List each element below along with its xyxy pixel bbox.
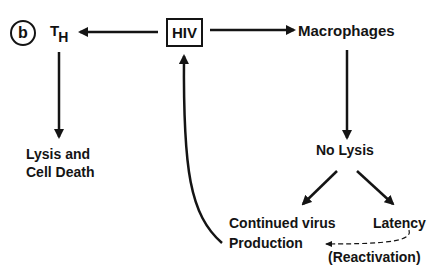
node-latency: Latency xyxy=(373,215,426,232)
panel-label-badge: b xyxy=(10,20,36,46)
arrow-no-lysis-to-latency xyxy=(357,171,393,204)
arrow-reactivation-dashed xyxy=(326,230,409,244)
node-lysis-line2: Cell Death xyxy=(26,164,94,181)
node-macrophages: Macrophages xyxy=(298,22,395,39)
panel-label: b xyxy=(18,25,28,41)
node-continued-line2: Production xyxy=(229,235,303,252)
node-lysis-line1: Lysis and xyxy=(26,146,90,163)
node-no-lysis: No Lysis xyxy=(316,142,374,159)
node-hiv: HIV xyxy=(166,18,203,47)
arrow-continued-to-hiv xyxy=(184,56,222,243)
node-continued-line1: Continued virus xyxy=(229,215,336,232)
node-th-sub: H xyxy=(58,29,68,45)
arrow-no-lysis-to-continued xyxy=(303,171,337,204)
label-reactivation: (Reactivation) xyxy=(328,249,421,266)
node-th: TH xyxy=(50,24,68,41)
node-hiv-label: HIV xyxy=(172,24,197,41)
